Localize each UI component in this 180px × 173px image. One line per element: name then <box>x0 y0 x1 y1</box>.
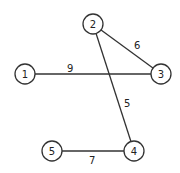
node-5: 5 <box>42 141 62 161</box>
edge-weight-label: 7 <box>89 155 95 166</box>
edge-weight-label: 5 <box>124 98 130 109</box>
node-1: 1 <box>15 64 35 84</box>
node-label: 4 <box>131 146 137 157</box>
edge-2-4 <box>96 34 131 142</box>
node-3: 3 <box>151 64 171 84</box>
edge-weight-label: 6 <box>134 40 140 51</box>
node-label: 2 <box>90 19 96 30</box>
node-label: 3 <box>158 69 164 80</box>
node-label: 1 <box>22 69 28 80</box>
edge-2-3 <box>101 30 153 68</box>
edge-weight-label: 9 <box>67 63 73 74</box>
node-2: 2 <box>83 14 103 34</box>
node-label: 5 <box>49 146 55 157</box>
graph-diagram: 965712345 <box>0 0 180 173</box>
graph-canvas: 965712345 <box>0 0 180 173</box>
node-4: 4 <box>124 141 144 161</box>
